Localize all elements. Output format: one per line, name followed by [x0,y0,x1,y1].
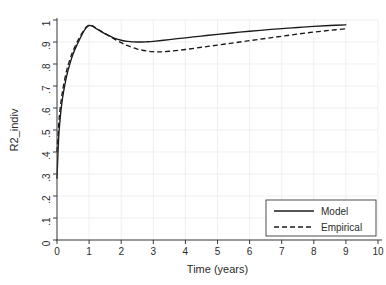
x-tick-label: 8 [311,246,317,257]
legend: ModelEmpirical [266,200,376,236]
y-tick-label: .9 [41,41,52,50]
y-tick-label: .3 [41,173,52,182]
legend-label-empirical: Empirical [321,222,362,233]
y-tick-label: .5 [41,129,52,138]
x-tick-label: 7 [279,246,285,257]
legend-label-model: Model [321,206,348,217]
y-tick-label: .4 [41,151,52,160]
x-tick-label: 6 [247,246,253,257]
x-tick-label: 3 [151,246,157,257]
y-tick-label: .7 [41,85,52,94]
x-tick-label: 2 [118,246,124,257]
chart-figure: 0.1.2.3.4.5.6.7.8.91012345678910 Time (y… [0,0,386,285]
y-tick-label: .2 [41,195,52,204]
y-axis-title: R2_indiv [8,108,20,151]
y-tick-label: 1 [41,20,52,26]
y-tick-label: .6 [41,107,52,116]
y-tick-label: .8 [41,63,52,72]
x-axis-title: Time (years) [187,263,248,275]
x-tick-label: 10 [372,246,384,257]
x-tick-label: 5 [215,246,221,257]
y-tick-label: 0 [41,240,52,246]
x-tick-label: 4 [183,246,189,257]
x-tick-label: 0 [54,246,60,257]
x-tick-label: 1 [86,246,92,257]
y-tick-label: .1 [41,217,52,226]
x-tick-label: 9 [343,246,349,257]
